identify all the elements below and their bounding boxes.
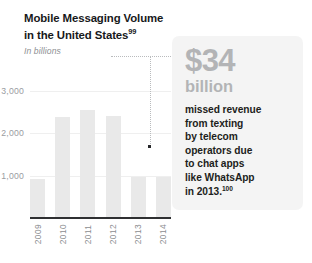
y-axis-tick-label: 3,000 [1,86,24,96]
x-axis-tick-label-2014: 2014 [158,224,168,244]
callout-body-footnote: 100 [222,184,233,191]
chart-x-axis-labels: 200920102011201220132014 [30,219,171,244]
title-footnote: 99 [128,27,136,36]
chart-header: Mobile Messaging Volume in the United St… [24,10,184,57]
page-title-line-1: Mobile Messaging Volume [24,10,184,27]
bar-2012[interactable] [106,116,121,219]
callout-marker-dot [148,145,151,148]
x-label-slot: 2012 [106,219,121,244]
x-label-slot: 2013 [131,219,146,244]
bar-slot [30,83,45,219]
bar-2013[interactable] [131,177,146,220]
x-label-slot: 2009 [30,219,45,244]
bar-2011[interactable] [80,110,95,219]
y-axis-tick-label: 1,000 [1,171,24,181]
x-label-slot: 2011 [80,219,95,244]
bar-slot [131,83,146,219]
bar-slot [80,83,95,219]
x-axis-tick-label-2012: 2012 [108,224,118,244]
bar-slot [156,83,171,219]
x-axis-tick-label-2013: 2013 [133,224,143,244]
x-axis-tick-label-2011: 2011 [83,224,93,244]
callout-body-line: to chat apps [185,157,292,171]
callout-card: $34 billion missed revenuefrom textingby… [172,36,303,210]
bar-slot [55,83,70,219]
x-label-slot: 2014 [156,219,171,244]
page-title-line-1-text: Mobile Messaging Volume [24,12,163,24]
chart-figure: Mobile Messaging Volume in the United St… [0,0,312,263]
callout-body-line: by telecom [185,130,292,144]
bar-2014[interactable] [156,177,171,220]
callout-body-line: from texting [185,117,292,131]
x-axis-tick-label-2009: 2009 [33,224,43,244]
callout-body-line: like WhatsApp [185,171,292,185]
callout-body-line: missed revenue [185,103,292,117]
x-axis-tick-label-2010: 2010 [58,224,68,244]
bar-2010[interactable] [55,117,70,219]
callout-body-line: operators due [185,144,292,158]
callout-leader-line-vertical [150,56,151,146]
callout-body-line: in 2013.100 [185,185,292,199]
callout-amount: $34 [185,44,292,77]
page-title-line-2: in the United States99 [24,27,184,44]
bar-slot [106,83,121,219]
callout-body: missed revenuefrom textingby telecomoper… [185,103,292,198]
bar-2009[interactable] [30,179,45,219]
callout-leader-line-horizontal [111,56,173,57]
y-axis-tick-label: 2,000 [1,128,24,138]
page-title-line-2-text: in the United States [24,29,128,41]
callout-unit: billion [185,77,292,96]
x-label-slot: 2010 [55,219,70,244]
